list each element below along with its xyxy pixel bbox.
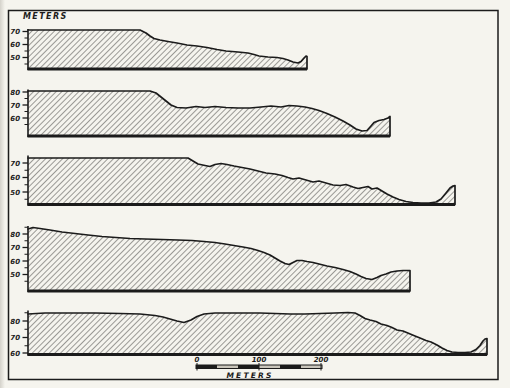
y-tick-label: 80 bbox=[10, 318, 20, 326]
scale-bar-tick-label: 100 bbox=[252, 356, 267, 364]
y-tick-label: 70 bbox=[10, 244, 20, 252]
y-tick-label: 70 bbox=[10, 160, 20, 168]
scale-bar-units-label: METERS bbox=[226, 371, 273, 380]
profile-4-area bbox=[28, 228, 410, 292]
profile-5: 807060 bbox=[10, 311, 487, 358]
scale-bar-segment bbox=[301, 365, 322, 369]
y-tick-label: 50 bbox=[10, 54, 20, 62]
profile-5-area bbox=[28, 313, 487, 355]
scale-bar-segment bbox=[196, 365, 217, 369]
profile-3: 706050 bbox=[10, 156, 455, 206]
y-axis-units-label: METERS bbox=[23, 12, 68, 21]
y-tick-label: 80 bbox=[10, 89, 20, 97]
y-tick-label: 60 bbox=[10, 174, 20, 182]
y-tick-label: 60 bbox=[10, 258, 20, 266]
scale-bar-segment bbox=[238, 365, 259, 369]
scanned-figure-page: METERS 70605080706070605080706050807060 … bbox=[0, 0, 510, 388]
y-tick-label: 50 bbox=[10, 189, 20, 197]
y-tick-label: 80 bbox=[10, 231, 20, 239]
y-tick-label: 60 bbox=[10, 115, 20, 123]
y-tick-label: 60 bbox=[10, 350, 20, 358]
profile-1-area bbox=[28, 30, 307, 69]
y-tick-label: 70 bbox=[10, 334, 20, 342]
y-tick-label: 60 bbox=[10, 41, 20, 49]
figure-canvas: METERS 70605080706070605080706050807060 … bbox=[0, 0, 510, 388]
profiles-group: 70605080706070605080706050807060 bbox=[10, 28, 487, 358]
scale-bar-segment bbox=[280, 365, 301, 369]
scale-bar-segment bbox=[259, 365, 280, 369]
scale-bar: 0100200 bbox=[195, 356, 329, 371]
profile-2-area bbox=[28, 91, 390, 136]
y-tick-label: 50 bbox=[10, 271, 20, 279]
scale-bar-segment bbox=[217, 365, 238, 369]
y-tick-label: 70 bbox=[10, 28, 20, 36]
scale-bar-tick-label: 0 bbox=[195, 356, 200, 364]
scale-bar-tick-label: 200 bbox=[314, 356, 329, 364]
y-tick-label: 70 bbox=[10, 102, 20, 110]
profile-4: 80706050 bbox=[10, 226, 410, 292]
profile-1: 706050 bbox=[10, 28, 307, 70]
profile-3-area bbox=[28, 158, 455, 205]
profile-2: 807060 bbox=[10, 89, 390, 138]
